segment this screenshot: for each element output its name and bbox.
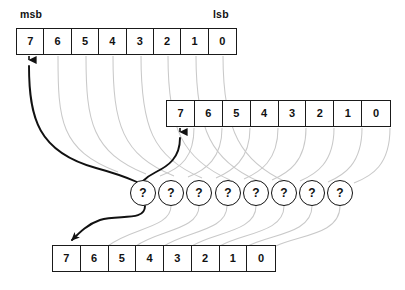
- top-bit-4: 4: [99, 29, 126, 54]
- bottom-byte-row: 7 6 5 4 3 2 1 0: [52, 245, 276, 272]
- middle-bit-7: 7: [167, 101, 195, 126]
- bottom-bit-5: 5: [109, 246, 137, 271]
- q-node-2: ?: [271, 180, 297, 206]
- bottom-bit-6: 6: [81, 246, 109, 271]
- middle-bit-1: 1: [334, 101, 362, 126]
- bit-permutation-diagram: msb lsb 7 6 5 4 3 2 1 0 7 6 5 4 3 2 1 0 …: [0, 0, 405, 290]
- top-bit-6: 6: [44, 29, 71, 54]
- middle-bit-0: 0: [362, 101, 390, 126]
- top-bit-2: 2: [154, 29, 181, 54]
- top-bit-5: 5: [72, 29, 99, 54]
- middle-byte-row: 7 6 5 4 3 2 1 0: [166, 100, 391, 127]
- q-node-7: ?: [130, 180, 156, 206]
- top-bit-7: 7: [17, 29, 44, 54]
- middle-bit-6: 6: [195, 101, 223, 126]
- bottom-bit-1: 1: [220, 246, 248, 271]
- msb-label: msb: [20, 8, 42, 20]
- q-node-6: ?: [158, 180, 184, 206]
- bottom-bit-2: 2: [192, 246, 220, 271]
- q-node-3: ?: [243, 180, 269, 206]
- middle-bit-4: 4: [251, 101, 279, 126]
- lsb-label: lsb: [213, 8, 229, 20]
- bottom-bit-3: 3: [164, 246, 192, 271]
- highlight-path-node-to-bottom-msb: [72, 206, 145, 240]
- bottom-bit-7: 7: [53, 246, 81, 271]
- top-bit-0: 0: [209, 29, 236, 54]
- q-node-5: ?: [186, 180, 212, 206]
- top-bit-3: 3: [127, 29, 154, 54]
- middle-bit-5: 5: [223, 101, 251, 126]
- q-node-4: ?: [215, 180, 241, 206]
- bottom-bit-4: 4: [136, 246, 164, 271]
- top-bit-1: 1: [181, 29, 208, 54]
- highlight-path-middle-msb-to-node: [143, 138, 180, 181]
- middle-bit-3: 3: [279, 101, 307, 126]
- top-byte-row: 7 6 5 4 3 2 1 0: [16, 28, 237, 55]
- bottom-bit-0: 0: [247, 246, 275, 271]
- q-node-1: ?: [299, 180, 325, 206]
- q-node-0: ?: [327, 180, 353, 206]
- middle-bit-2: 2: [306, 101, 334, 126]
